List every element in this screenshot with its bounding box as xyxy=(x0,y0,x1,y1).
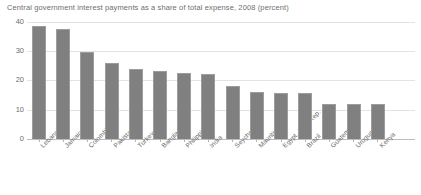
x-axis-tick xyxy=(160,139,161,142)
y-axis-tick-label: 10 xyxy=(2,105,24,114)
bar-group: Colombia xyxy=(75,0,99,139)
x-axis-tick xyxy=(377,139,378,142)
plot-area: 010203040 LebanonJamaicaColombiaPakistan… xyxy=(0,0,421,195)
x-axis-tick xyxy=(256,139,257,142)
bar xyxy=(105,63,119,139)
bar-group: Pakistan xyxy=(100,0,124,139)
bar-group: Egypt, Arab Rep. xyxy=(269,0,293,139)
bar-series: LebanonJamaicaColombiaPakistanTurkeyBang… xyxy=(27,0,415,139)
x-axis-tick xyxy=(111,139,112,142)
bar xyxy=(322,104,336,139)
bar xyxy=(201,74,215,139)
bar-group: Uruguay xyxy=(342,0,366,139)
y-axis-tick-label: 20 xyxy=(2,75,24,84)
bar xyxy=(129,69,143,140)
y-axis-tick-label: 0 xyxy=(2,134,24,143)
bar-group: Guatemala xyxy=(317,0,341,139)
bar xyxy=(274,93,288,139)
bar-group: Brazil xyxy=(293,0,317,139)
bar xyxy=(371,104,385,139)
y-axis-tick-label: 30 xyxy=(2,46,24,55)
bar-group: Jamaica xyxy=(51,0,75,139)
bar-group: Bangladesh xyxy=(148,0,172,139)
x-axis-tick xyxy=(281,139,282,142)
x-axis-tick xyxy=(232,139,233,142)
x-axis-tick xyxy=(353,139,354,142)
bar xyxy=(80,52,94,139)
bar xyxy=(347,104,361,139)
bar xyxy=(250,92,264,139)
bar-group: Seychelles xyxy=(221,0,245,139)
x-axis-tick xyxy=(39,139,40,142)
x-axis-tick xyxy=(135,139,136,142)
bar xyxy=(32,26,46,139)
bar xyxy=(226,86,240,139)
bar-group: Turkey xyxy=(124,0,148,139)
bar xyxy=(56,29,70,139)
bar-group: Lebanon xyxy=(27,0,51,139)
bar-group: Kenya xyxy=(366,0,390,139)
bar xyxy=(298,93,312,139)
bar-group: Philippines xyxy=(172,0,196,139)
bar-group: India xyxy=(196,0,220,139)
bar xyxy=(153,71,167,139)
y-axis-tick-label: 40 xyxy=(2,17,24,26)
bar xyxy=(177,73,191,139)
bar-group: Mauritius xyxy=(245,0,269,139)
bar-chart: Central government interest payments as … xyxy=(0,0,421,195)
